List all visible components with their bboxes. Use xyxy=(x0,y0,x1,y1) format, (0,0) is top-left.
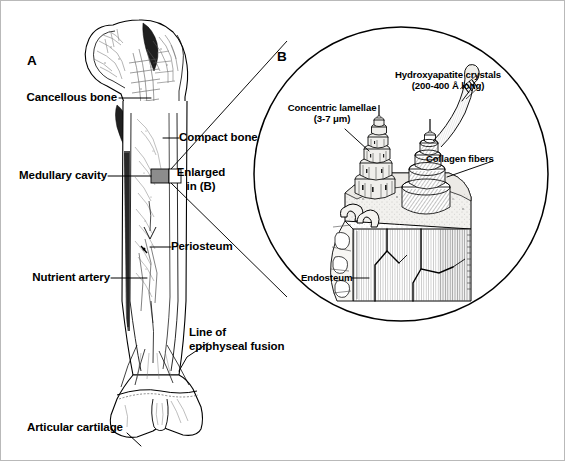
label-cancellous-bone: Cancellous bone xyxy=(1,91,117,105)
label-hydroxyapatite-crystals: Hydroxyapatite crystals (200-400 Å long) xyxy=(385,69,511,92)
label-medullary-cavity: Medullary cavity xyxy=(1,169,107,183)
panel-letter-b: B xyxy=(277,49,287,65)
label-endosteum: Endosteum xyxy=(301,272,371,283)
label-periosteum: Periosteum xyxy=(171,240,267,254)
panel-a-femur-drawing xyxy=(85,20,287,446)
label-enlarged-in-b: Enlarged in (B) xyxy=(167,166,235,193)
femur-shaft-diaphysis xyxy=(122,101,187,375)
label-nutrient-artery: Nutrient artery xyxy=(1,271,110,285)
label-compact-bone: Compact bone xyxy=(179,131,289,145)
label-collagen-fibers: Collagen fibers xyxy=(426,153,514,164)
label-concentric-lamellae: Concentric lamellae (3-7 μm) xyxy=(273,102,391,125)
panel-letter-a: A xyxy=(27,53,37,69)
label-line-of-epiphyseal-fusion: Line of epiphyseal fusion xyxy=(189,326,309,353)
figure-container: A B Cancellous bone Compact bone Medulla… xyxy=(0,0,565,461)
label-articular-cartilage: Articular cartilage xyxy=(27,421,157,435)
